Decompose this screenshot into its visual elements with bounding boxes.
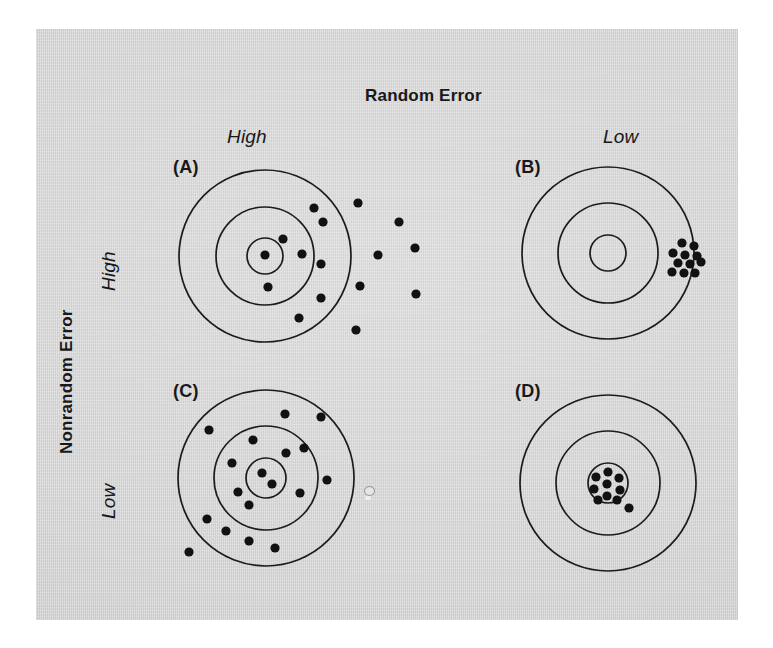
shot-marker xyxy=(589,484,598,493)
shot-marker xyxy=(591,472,600,481)
panel-tag-b: (B) xyxy=(515,158,541,176)
shot-marker xyxy=(614,473,623,482)
column-header-high: High xyxy=(227,127,267,146)
scan-speck-artifact xyxy=(364,486,375,496)
row-header-low: Low xyxy=(99,484,118,519)
shot-marker xyxy=(615,485,624,494)
column-axis-title: Random Error xyxy=(365,87,482,104)
shot-marker xyxy=(612,495,621,504)
shot-marker xyxy=(602,479,611,488)
shot-marker xyxy=(593,495,602,504)
row-axis-title: Nonrandom Error xyxy=(58,309,75,454)
shot-marker xyxy=(603,467,612,476)
panel-tag-a: (A) xyxy=(173,158,199,176)
panel-tag-d: (D) xyxy=(515,382,541,400)
column-header-low: Low xyxy=(603,127,638,146)
figure-root: Random Error High Low Nonrandom Error Hi… xyxy=(0,0,773,648)
panel-tag-c: (C) xyxy=(173,382,199,400)
row-header-high: High xyxy=(99,251,118,291)
shot-marker xyxy=(624,503,633,512)
shot-marker xyxy=(602,491,611,500)
figure-plate: Random Error High Low Nonrandom Error Hi… xyxy=(36,29,738,620)
target-panel-d xyxy=(36,29,738,620)
